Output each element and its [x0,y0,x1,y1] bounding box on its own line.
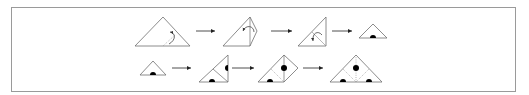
step-r2-s1 [140,61,166,75]
half-dot-left-icon [340,79,346,82]
curved-fold-arrow-icon [243,27,254,32]
step-r1-s2 [223,17,257,46]
curved-fold-arrow-icon [313,33,322,41]
half-dot-side-icon [225,65,228,71]
dot-icon [353,65,359,71]
dotted-fold-line [271,69,284,82]
dot-icon [281,65,287,71]
half-dot-icon [267,79,273,82]
half-dot-icon [370,35,376,38]
step-r1-s3 [298,17,326,46]
half-dot-right-icon [366,79,372,82]
step-r2-s2 [199,55,228,82]
diamond-shape [258,55,298,82]
fold-line [213,69,228,82]
folding-diagram [0,0,529,95]
step-r1-s4 [359,24,387,38]
step-r2-s3 [258,55,298,82]
diamond-shape [223,17,257,46]
triangle-large-shape [135,17,190,46]
half-dot-icon [150,72,156,75]
half-dot-bottom-icon [209,79,215,82]
step-r2-s4 [330,55,382,82]
step-r1-s1 [135,17,190,46]
